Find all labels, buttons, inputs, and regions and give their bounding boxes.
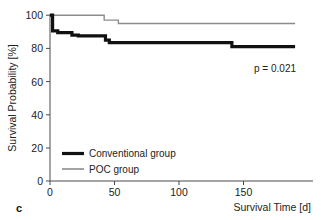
legend-label-poc: POC group <box>89 164 139 175</box>
y-tick-label-20: 20 <box>31 142 43 154</box>
survival-curve-figure: 0 20 40 60 80 100 0 50 100 150 Survival … <box>0 0 321 220</box>
legend-label-conventional: Conventional group <box>89 148 176 159</box>
p-value-annotation: p = 0.021 <box>254 63 296 74</box>
y-tick-label-100: 100 <box>25 9 43 21</box>
x-tick-label-0: 0 <box>47 186 53 198</box>
kaplan-meier-chart: 0 20 40 60 80 100 0 50 100 150 Survival … <box>0 0 321 220</box>
x-axis-title: Survival Time [d] <box>233 201 311 213</box>
x-tick-label-150: 150 <box>235 186 253 198</box>
panel-label: c <box>16 202 22 214</box>
y-axis-title: Survival Probability [%] <box>6 44 18 151</box>
y-tick-label-40: 40 <box>31 109 43 121</box>
y-tick-label-80: 80 <box>31 42 43 54</box>
y-tick-label-60: 60 <box>31 76 43 88</box>
y-tick-label-0: 0 <box>37 175 43 187</box>
x-tick-label-100: 100 <box>170 186 188 198</box>
x-tick-label-50: 50 <box>109 186 121 198</box>
